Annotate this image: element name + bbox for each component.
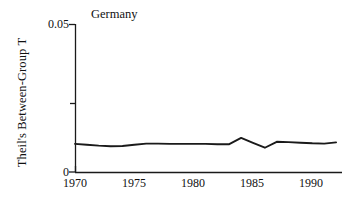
data-series-line-germany bbox=[75, 138, 336, 148]
chart-figure: Theil's Between-Group T Germany 0.05 0 1… bbox=[0, 0, 357, 205]
plot-area bbox=[0, 0, 357, 205]
y-axis-ticks bbox=[69, 25, 75, 173]
